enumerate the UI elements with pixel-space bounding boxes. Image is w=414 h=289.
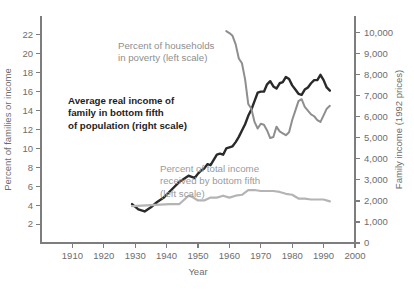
annotation-poverty-label: Percent of householdsin poverty (left sc… (118, 40, 214, 65)
left-axis-tick-label: 12 (22, 124, 33, 135)
right-axis-tick-label: 4,000 (364, 153, 388, 164)
annotation-income-line1: Average real income of (68, 95, 174, 106)
left-axis-tick-label: 8 (28, 162, 33, 173)
left-axis-tick-label: 22 (22, 29, 33, 40)
left-axis-tick-label: 16 (22, 86, 33, 97)
right-axis-tick-label: 6,000 (364, 111, 388, 122)
annotation-income-line2: family in bottom fifth (68, 107, 164, 118)
x-axis-tick-label: 1930 (125, 250, 146, 261)
left-axis-tick-label: 10 (22, 143, 33, 154)
x-axis-tick-label: 1960 (219, 250, 240, 261)
left-axis-tick-label: 18 (22, 67, 33, 78)
annotation-share-line1: Percent of total income (160, 163, 259, 174)
left-axis-tick-label: 20 (22, 48, 33, 59)
annotation-income-line3: of population (right scale) (68, 120, 187, 131)
x-axis-tick-label: 1910 (62, 250, 83, 261)
annotation-poverty-line2: in poverty (left scale) (118, 52, 207, 63)
left-axis-tick-label: 2 (28, 218, 33, 229)
x-axis-tick-label: 1950 (187, 250, 208, 261)
right-axis-tick-label: 10,000 (364, 27, 393, 38)
right-axis-tick-label: 3,000 (364, 174, 388, 185)
x-axis-tick-label: 1990 (313, 250, 334, 261)
right-axis-tick-label: 5,000 (364, 132, 388, 143)
x-axis-tick-label: 1940 (156, 250, 177, 261)
right-axis-tick-label: 1,000 (364, 216, 388, 227)
annotation-share-label: Percent of total incomereceived by botto… (160, 163, 260, 200)
annotation-share-line2: received by bottom fifth (160, 175, 260, 186)
right-axis-title: Family income (1992 prices) (393, 70, 404, 189)
left-axis-tick-label: 6 (28, 181, 33, 192)
x-axis-tick-label: 1980 (282, 250, 303, 261)
annotation-poverty-line1: Percent of households (118, 40, 214, 51)
x-axis-title: Year (188, 266, 207, 277)
x-axis-tick-label: 2000 (344, 250, 365, 261)
left-axis-tick-label: 4 (28, 200, 33, 211)
annotation-share-line3: (left scale) (160, 188, 205, 199)
right-axis-tick-label: 2,000 (364, 195, 388, 206)
left-axis-tick-label: 14 (22, 105, 33, 116)
right-axis-tick-label: 7,000 (364, 90, 388, 101)
chart-figure: 24681012141618202201,0002,0003,0004,0005… (0, 0, 414, 289)
x-axis-tick-label: 1920 (93, 250, 114, 261)
left-axis-title: Percent of families or income (2, 68, 13, 191)
right-axis-tick-label: 9,000 (364, 48, 388, 59)
right-axis-tick-label: 0 (364, 237, 369, 248)
right-axis-tick-label: 8,000 (364, 69, 388, 80)
x-axis-tick-label: 1970 (250, 250, 271, 261)
annotation-income-label: Average real income offamily in bottom f… (68, 95, 187, 132)
